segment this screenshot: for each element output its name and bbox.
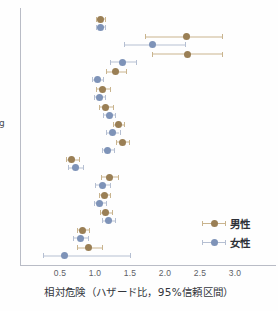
ci-cap-high — [110, 87, 111, 92]
data-point-male[interactable] — [99, 86, 106, 93]
data-point-female[interactable] — [94, 76, 101, 83]
x-tick-label: 0.5 — [54, 268, 66, 278]
y-axis-label: g — [0, 118, 5, 128]
data-point-male[interactable] — [68, 156, 75, 163]
data-point-female[interactable] — [106, 112, 113, 119]
ci-cap-low — [152, 52, 153, 57]
ci-cap-low — [106, 130, 107, 135]
x-tick-label: 3.0 — [229, 268, 241, 278]
ci-cap-high — [105, 25, 106, 30]
ci-cap-low — [103, 113, 104, 118]
ci-cap-low — [99, 193, 100, 198]
ci-cap-high — [102, 245, 103, 250]
ci-cap-high — [83, 165, 84, 170]
data-point-male[interactable] — [183, 33, 190, 40]
ci-cap-high — [106, 201, 107, 206]
data-point-male[interactable] — [106, 174, 113, 181]
data-point-female[interactable] — [77, 235, 84, 242]
ci-cap-high — [126, 69, 127, 74]
ci-cap-high — [222, 34, 223, 39]
ci-cap-high — [113, 105, 114, 110]
ci-cap-high — [124, 122, 125, 127]
data-point-male[interactable] — [184, 51, 191, 58]
ci-cap-high — [110, 193, 111, 198]
data-point-female[interactable] — [149, 41, 156, 48]
ci-cap-high — [118, 175, 119, 180]
ci-cap-low — [124, 42, 125, 47]
ci-cap-high — [222, 52, 223, 57]
ci-cap-low — [110, 60, 111, 65]
ci-cap-low — [106, 69, 107, 74]
ci-cap-low — [92, 77, 93, 82]
ci-cap-low — [99, 105, 100, 110]
ci-cap-low — [66, 157, 67, 162]
ci-cap-high — [105, 95, 106, 100]
ci-cap-high — [103, 77, 104, 82]
confidence-interval-bar — [43, 255, 131, 256]
data-point-male[interactable] — [115, 121, 122, 128]
ci-cap-high — [105, 17, 106, 22]
x-tick-label: 1.0 — [89, 268, 101, 278]
ci-cap-low — [95, 183, 96, 188]
chart-legend: 男性 女性 — [202, 214, 250, 252]
ci-cap-low — [145, 34, 146, 39]
data-point-male[interactable] — [119, 139, 126, 146]
data-point-female[interactable] — [96, 94, 103, 101]
ci-cap-low — [100, 210, 101, 215]
data-point-male[interactable] — [79, 227, 86, 234]
ci-cap-low — [94, 201, 95, 206]
ci-cap-low — [68, 165, 69, 170]
data-point-female[interactable] — [109, 129, 116, 136]
ci-cap-low — [102, 218, 103, 223]
ci-cap-high — [115, 218, 116, 223]
data-point-male[interactable] — [102, 209, 109, 216]
data-point-male[interactable] — [112, 68, 119, 75]
data-point-female[interactable] — [96, 200, 103, 207]
data-point-male[interactable] — [85, 244, 92, 251]
legend-item-female[interactable]: 女性 — [202, 233, 250, 252]
legend-label-male: 男性 — [230, 216, 250, 231]
data-point-female[interactable] — [104, 147, 111, 154]
data-point-male[interactable] — [101, 192, 108, 199]
legend-item-male[interactable]: 男性 — [202, 214, 250, 233]
ci-cap-high — [115, 113, 116, 118]
ci-cap-low — [113, 122, 114, 127]
data-point-male[interactable] — [97, 16, 104, 23]
ci-cap-high — [114, 148, 115, 153]
data-point-female[interactable] — [119, 59, 126, 66]
ci-cap-high — [129, 140, 130, 145]
ci-cap-low — [77, 245, 78, 250]
legend-label-female: 女性 — [230, 235, 250, 250]
ci-cap-low — [94, 95, 95, 100]
data-point-male[interactable] — [102, 104, 109, 111]
ci-cap-high — [120, 130, 121, 135]
x-axis-label: 相対危険（ハザード比，95%信頼区間） — [0, 284, 278, 299]
x-axis-spine — [20, 265, 276, 266]
data-point-female[interactable] — [99, 182, 106, 189]
ci-cap-high — [88, 236, 89, 241]
forest-plot-chart: g 0.51.01.52.02.53.0 相対危険（ハザード比，95%信頼区間）… — [0, 0, 278, 311]
data-point-female[interactable] — [72, 164, 79, 171]
data-point-female[interactable] — [105, 217, 112, 224]
ci-cap-high — [136, 60, 137, 65]
ci-cap-high — [89, 228, 90, 233]
ci-cap-high — [79, 157, 80, 162]
ci-cap-low — [43, 253, 44, 258]
ci-cap-high — [110, 183, 111, 188]
x-tick-label: 1.5 — [124, 268, 136, 278]
ci-cap-low — [73, 236, 74, 241]
ci-cap-high — [112, 210, 113, 215]
legend-marker-male-icon — [202, 219, 226, 228]
ci-cap-low — [116, 140, 117, 145]
ci-cap-low — [96, 87, 97, 92]
data-point-female[interactable] — [61, 252, 68, 259]
ci-cap-high — [130, 253, 131, 258]
ci-cap-high — [185, 42, 186, 47]
x-tick-label: 2.5 — [194, 268, 206, 278]
x-tick-label: 2.0 — [159, 268, 171, 278]
legend-marker-female-icon — [202, 238, 226, 247]
ci-cap-low — [101, 175, 102, 180]
ci-cap-low — [77, 228, 78, 233]
ci-cap-low — [102, 148, 103, 153]
data-point-female[interactable] — [97, 24, 104, 31]
